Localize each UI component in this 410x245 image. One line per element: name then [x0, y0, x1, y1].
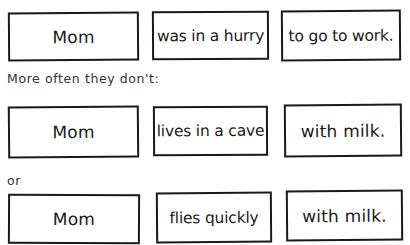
card-text: with milk.	[301, 120, 386, 141]
card-text: was in a hurry	[157, 26, 264, 45]
ending-card: to go to work.	[281, 10, 401, 62]
caption-more-often: More often they don't:	[7, 71, 159, 86]
card-text: with milk.	[302, 205, 387, 226]
card-text: to go to work.	[289, 26, 394, 45]
predicate-card: flies quickly	[156, 192, 272, 244]
subject-card: Mom	[8, 12, 139, 62]
card-text: Mom	[52, 122, 94, 142]
ending-card: with milk.	[286, 189, 403, 241]
subject-card: Mom	[8, 105, 139, 158]
card-text: Mom	[52, 26, 94, 46]
ending-card: with milk.	[284, 103, 402, 157]
card-text: flies quickly	[169, 208, 258, 227]
card-text: lives in a cave	[157, 122, 265, 141]
predicate-card: lives in a cave	[153, 106, 268, 157]
subject-card: Mom	[8, 194, 140, 245]
predicate-card: was in a hurry	[152, 11, 269, 61]
card-text: Mom	[53, 209, 95, 229]
caption-or: or	[7, 173, 21, 188]
